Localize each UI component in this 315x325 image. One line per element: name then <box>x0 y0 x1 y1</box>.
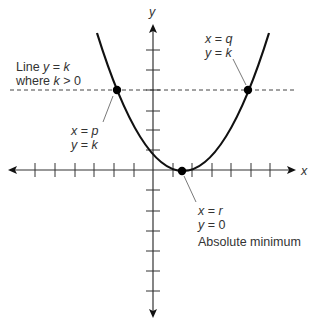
parabola-diagram: x y Line y = k where k > <box>0 0 315 325</box>
point-q-label-x: x = q <box>204 32 233 46</box>
point-q-label-y: y = k <box>204 46 233 60</box>
line-label-2: where k > 0 <box>15 74 81 88</box>
point-r-label-x: x = r <box>197 204 224 218</box>
point-p <box>113 86 121 94</box>
leader-line-p <box>103 96 113 122</box>
point-q <box>244 86 252 94</box>
leader-line-r <box>184 176 196 202</box>
leader-line-q <box>233 59 246 85</box>
x-axis-label: x <box>300 164 308 178</box>
point-p-label-y: y = k <box>70 138 99 152</box>
parabola-curve <box>97 33 269 171</box>
x-axis <box>8 163 296 177</box>
line-label-1: Line y = k <box>16 60 71 74</box>
absolute-minimum-caption: Absolute minimum <box>198 235 301 249</box>
point-r-label-y: y = 0 <box>197 218 226 232</box>
point-p-label-x: x = p <box>70 124 99 138</box>
y-axis <box>146 24 160 318</box>
y-axis-label: y <box>148 5 156 19</box>
point-r-minimum <box>178 167 186 175</box>
